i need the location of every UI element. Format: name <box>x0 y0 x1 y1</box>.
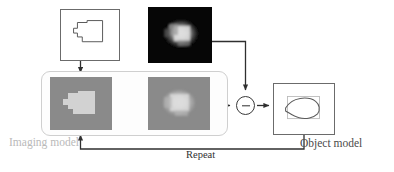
edge-repeat-feedback-loop <box>81 135 305 149</box>
object-model-label: Object model <box>300 138 362 150</box>
noisy-image-box <box>148 7 212 63</box>
diagram-canvas: Imaging model Object model Repeat <box>0 0 394 172</box>
light-notched-rectangle-on-gray-icon <box>50 77 112 130</box>
blurred-bright-blob-on-black-icon <box>148 7 212 63</box>
imaging-model-label: Imaging model <box>9 137 79 149</box>
object-model-box <box>273 83 335 135</box>
blurred-light-blob-on-gray-icon <box>148 77 210 130</box>
subtract-node <box>236 96 255 115</box>
minus-icon <box>242 105 250 106</box>
irregular-blob-outline-with-faint-rectangle-icon <box>274 84 334 134</box>
notched-rectangle-outline-icon <box>61 10 119 60</box>
object-shape-box <box>60 9 120 61</box>
imaging-input-panel <box>50 77 112 130</box>
imaging-output-panel <box>148 77 210 130</box>
repeat-label: Repeat <box>186 150 215 161</box>
